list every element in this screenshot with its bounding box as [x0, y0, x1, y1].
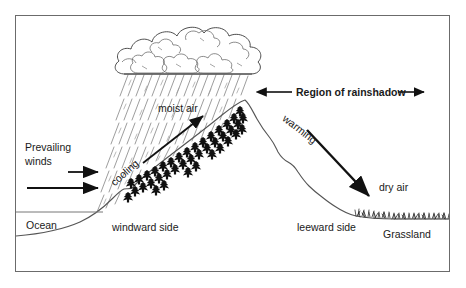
region-of-rainshadow-label: Region of rainshadow: [296, 86, 406, 98]
cumulus-cloud: [115, 27, 261, 74]
windward-side-label: windward side: [112, 221, 179, 233]
ocean-label: Ocean: [26, 219, 57, 231]
grassland-label: Grassland: [383, 228, 431, 240]
conifer-forest: [123, 106, 248, 202]
moist-air-label: moist air: [158, 102, 198, 114]
prevailing-winds-label-line1: Prevailing: [25, 141, 71, 153]
diagram-canvas: Prevailing winds Ocean windward side coo…: [0, 0, 466, 288]
dry-air-label: dry air: [379, 181, 408, 193]
prevailing-winds-label-line2: winds: [25, 155, 52, 167]
leeward-side-label: leeward side: [297, 221, 356, 233]
